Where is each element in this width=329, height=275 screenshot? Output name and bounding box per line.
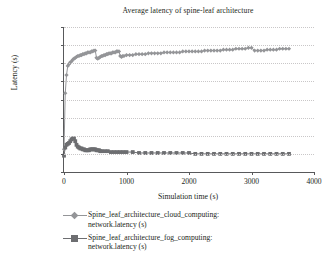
x-tick-mark [189,172,190,175]
y-tick-mark [61,81,64,82]
gridline [64,63,314,64]
data-point [231,48,235,52]
x-tick-label: 2000 [169,177,209,186]
plot-area: 00.00020.00040.00060.00080.0010.00120.00… [63,27,314,173]
legend-marker [71,235,78,242]
data-point [262,48,266,52]
legend-label-line2: network.latency (s) [88,242,212,252]
legend-item[interactable]: Spine_leaf_architecture_cloud_computing:… [62,210,324,229]
chart-legend: Spine_leaf_architecture_cloud_computing:… [62,210,324,255]
data-point [143,52,147,56]
x-tick-label: 4000 [294,177,329,186]
data-point [274,48,278,52]
gridline [64,154,314,155]
latency-chart: Average latency of spine-leaf architectu… [0,0,329,275]
gridline [64,100,314,101]
gridline [64,118,314,119]
y-tick-mark [61,27,64,28]
y-tick-mark [61,100,64,101]
gridline [64,136,314,137]
x-tick-mark [127,172,128,175]
gridline [64,45,314,46]
data-point [199,49,203,53]
x-tick-mark [64,172,65,175]
data-point [73,139,77,143]
data-point [243,47,247,51]
y-tick-mark [61,63,64,64]
data-point [178,50,182,54]
legend-item[interactable]: Spine_leaf_architecture_fog_computing:ne… [62,233,324,252]
y-tick-mark [61,45,64,46]
legend-label-line1: Spine_leaf_architecture_cloud_computing: [88,210,219,219]
data-point [287,47,291,51]
chart-title: Average latency of spine-leaf architectu… [63,6,313,15]
x-tick-label: 3000 [232,177,272,186]
legend-label: Spine_leaf_architecture_cloud_computing:… [88,210,219,229]
legend-marker [71,212,79,220]
data-point [218,48,222,52]
x-tick-label: 0 [44,177,84,186]
legend-label: Spine_leaf_architecture_fog_computing:ne… [88,233,212,252]
y-tick-mark [61,136,64,137]
y-axis-label: Latency (s) [10,13,19,133]
y-tick-mark [61,154,64,155]
square-marker-icon [62,234,88,243]
data-point [64,73,68,77]
gridline [64,27,314,28]
legend-label-line2: network.latency (s) [88,220,219,230]
x-tick-mark [252,172,253,175]
diamond-marker-icon [62,211,88,220]
y-tick-mark [61,118,64,119]
x-tick-mark [314,172,315,175]
data-point [63,91,67,95]
gridline [64,81,314,82]
legend-label-line1: Spine_leaf_architecture_fog_computing: [88,233,212,242]
x-tick-label: 1000 [107,177,147,186]
data-point [159,51,163,55]
x-axis-label: Simulation time (s) [63,192,313,201]
data-point [131,53,135,57]
